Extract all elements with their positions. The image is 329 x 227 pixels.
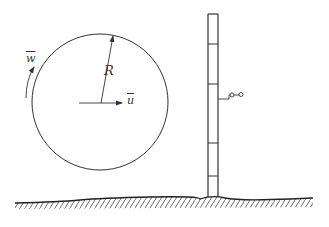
anemometer-icon <box>218 93 243 100</box>
rotation-velocity-label: w <box>26 53 35 64</box>
vortex-circle <box>32 34 168 170</box>
vortex-mast-diagram <box>0 0 329 227</box>
ground <box>15 197 313 209</box>
translation-velocity-label: u <box>127 95 134 106</box>
mast <box>208 14 218 197</box>
radius-label: R <box>104 64 114 77</box>
